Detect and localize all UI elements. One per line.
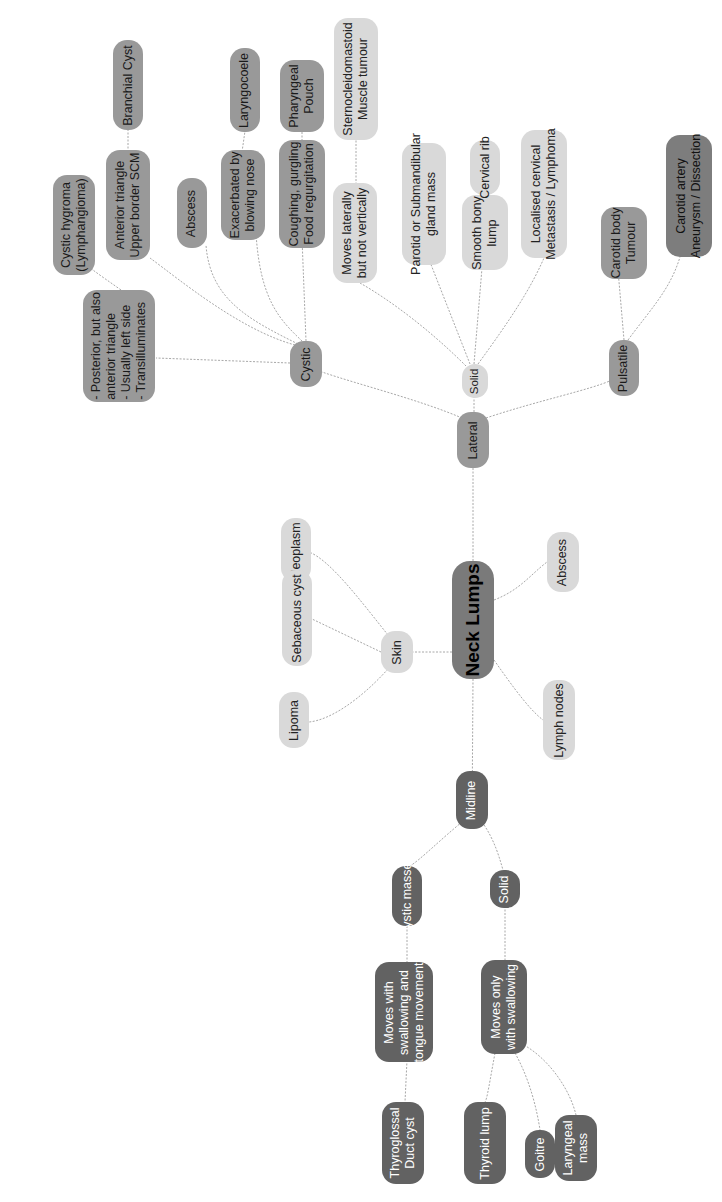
node-midline-cystic-masses[interactable]: Cystic masses [392, 866, 422, 926]
node-label: Thyroid lump [478, 1107, 493, 1179]
node-goitre[interactable]: Goitre [525, 1130, 555, 1178]
node-skin-sebaceous-cyst[interactable]: Sebaceous cyst [282, 570, 312, 666]
node-cystic-hygroma[interactable]: Cystic hygroma (Lymphangioma) [53, 175, 95, 275]
node-label: Sebaceous cyst [290, 574, 305, 662]
node-label: Moves laterally but not vertically [340, 188, 370, 278]
node-label: Solid [467, 368, 482, 394]
node-label: Midline [465, 780, 480, 820]
node-thyroglossal-duct-cyst[interactable]: Thyroglossal Duct cyst [382, 1102, 424, 1184]
node-label: Anterior triangle Upper border SCM [113, 153, 143, 258]
node-skin[interactable]: Skin [381, 631, 413, 673]
node-moves-laterally[interactable]: Moves laterally but not vertically [333, 183, 377, 283]
node-parotid-submandibular[interactable]: Parotid or Submandibular gland mass [402, 143, 446, 265]
node-label: Branchial Cyst [121, 45, 136, 126]
node-label: Carotid body Tumour [609, 208, 639, 279]
root-label: Neck Lumps [463, 564, 483, 677]
node-midline-solid[interactable]: Solid [490, 870, 520, 908]
node-smooth-bony-lump[interactable]: Smooth bony lump [462, 195, 508, 270]
node-branchial-cyst[interactable]: Branchial Cyst [113, 40, 143, 130]
node-label: Coughing, gurgling Food regurgitation [287, 142, 317, 247]
node-label: Lateral [466, 421, 481, 459]
node-label: Moves with swallowing and tongue movemen… [382, 962, 427, 1062]
node-exacerbated-blowing-nose[interactable]: Exacerbated by blowing nose [221, 150, 265, 240]
node-midline[interactable]: Midline [456, 771, 488, 829]
node-label: Laryngeal mass [561, 1121, 591, 1176]
node-sternocleidomastoid-tumour[interactable]: Sternocleidomastoid Muscle tumour [334, 18, 378, 140]
node-label: Moves only with swallowing [489, 964, 519, 1050]
node-cervical-rib[interactable]: Cervical rib [470, 140, 500, 195]
node-moves-only-swallowing[interactable]: Moves only with swallowing [481, 960, 527, 1054]
node-abscess[interactable]: Abscess [547, 532, 579, 592]
node-label: Cystic [299, 347, 314, 381]
node-carotid-body-tumour[interactable]: Carotid body Tumour [601, 207, 647, 279]
node-coughing-gurgling[interactable]: Coughing, gurgling Food regurgitation [279, 140, 325, 248]
node-label: Laryngocoele [238, 52, 253, 127]
node-label: Pulsatile [617, 344, 632, 391]
node-lateral-solid[interactable]: Solid [462, 364, 488, 398]
node-cystic-abscess[interactable]: Abscess [177, 178, 207, 248]
node-label: Skin [389, 640, 404, 664]
node-localised-cervical-metastasis[interactable]: Localised cervical Metastasis / Lymphoma [521, 130, 567, 258]
node-label: Carotid artery Aneurysm / Dissection [674, 134, 704, 258]
node-label: Pharyngeal Pouch [287, 64, 317, 127]
node-label: Lymph nodes [552, 683, 567, 758]
node-label: Exacerbated by blowing nose [228, 152, 258, 239]
node-moves-swallowing-tongue[interactable]: Moves with swallowing and tongue movemen… [375, 962, 433, 1062]
node-label: Cervical rib [478, 136, 493, 199]
node-thyroid-lump[interactable]: Thyroid lump [464, 1102, 506, 1184]
node-label: Cystic hygroma (Lymphangioma) [59, 178, 89, 271]
node-lateral-pulsatile[interactable]: Pulsatile [609, 340, 639, 396]
node-pharyngeal-pouch[interactable]: Pharyngeal Pouch [280, 60, 324, 132]
node-laryngocoele[interactable]: Laryngocoele [230, 48, 260, 132]
node-label: Sternocleidomastoid Muscle tumour [341, 22, 371, 135]
node-skin-lipoma[interactable]: Lipoma [279, 692, 309, 748]
node-label: Localised cervical Metastasis / Lymphoma [529, 128, 559, 260]
node-label: Smooth bony lump [470, 196, 500, 270]
node-lymph-nodes[interactable]: Lymph nodes [543, 680, 575, 760]
node-anterior-triangle[interactable]: Anterior triangle Upper border SCM [106, 150, 150, 260]
node-laryngeal-mass[interactable]: Laryngeal mass [555, 1115, 597, 1181]
node-lateral[interactable]: Lateral [457, 412, 489, 468]
node-label: Abscess [185, 189, 200, 236]
node-label: Lipoma [287, 700, 302, 741]
node-cystic-posterior-features[interactable]: - Posterior, but also anterior triangle … [83, 290, 155, 402]
node-label: Parotid or Submandibular gland mass [409, 133, 439, 275]
node-label: Goitre [533, 1137, 548, 1171]
node-label: Abscess [556, 538, 571, 585]
root-node-neck-lumps[interactable]: Neck Lumps [452, 561, 494, 679]
node-label: - Posterior, but also anterior triangle … [89, 292, 149, 400]
node-carotid-artery-aneurysm[interactable]: Carotid artery Aneurysm / Dissection [666, 135, 712, 257]
node-label: Thyroglossal Duct cyst [388, 1108, 418, 1179]
mind-map-canvas: Neck Lumps Lateral Midline Skin Abscess … [0, 0, 722, 1202]
node-label: Cystic masses [400, 856, 415, 937]
node-label: Solid [497, 875, 512, 903]
node-lateral-cystic[interactable]: Cystic [290, 341, 322, 387]
